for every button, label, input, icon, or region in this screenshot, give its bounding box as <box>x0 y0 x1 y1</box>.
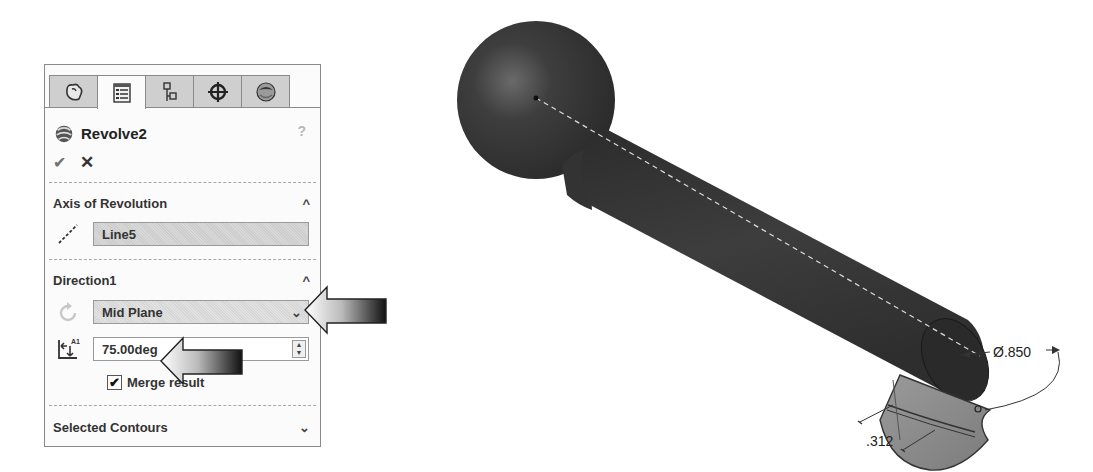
angle-icon-label: A1 <box>71 338 80 345</box>
divider <box>49 182 316 183</box>
merge-result-checkbox[interactable]: ✔ <box>107 375 122 390</box>
diameter-dimension[interactable]: Ø.850 <box>993 344 1031 360</box>
ok-button[interactable]: ✔ <box>53 153 66 172</box>
tab-displaymanager[interactable] <box>241 75 290 108</box>
angle-icon: A1 <box>55 336 81 362</box>
thickness-dimension[interactable]: .312 <box>866 433 893 449</box>
help-icon[interactable]: ? <box>297 123 306 139</box>
tab-dimxpertmanager[interactable] <box>193 75 242 108</box>
spin-down-icon[interactable]: ▼ <box>296 349 303 357</box>
graphics-viewport[interactable]: Ø.850 .312 <box>420 0 1093 472</box>
axis-value: Line5 <box>102 227 136 242</box>
end-condition-dropdown[interactable]: Mid Plane ⌄ <box>93 300 309 324</box>
tab-featuremanager[interactable] <box>49 75 98 108</box>
expand-chevron-icon[interactable]: ⌄ <box>299 420 310 435</box>
reverse-direction-icon[interactable] <box>55 300 81 326</box>
feature-title: Revolve2 <box>81 125 147 142</box>
end-condition-value: Mid Plane <box>102 305 163 320</box>
angle-spinner[interactable]: ▲ ▼ <box>292 340 306 358</box>
axis-of-revolution-header[interactable]: Axis of Revolution ^ <box>53 193 310 213</box>
ok-cancel-row: ✔ ✕ <box>53 152 94 173</box>
axis-centerline <box>536 98 980 356</box>
collapse-chevron-icon[interactable]: ^ <box>302 196 310 211</box>
tab-propertymanager[interactable] <box>97 75 146 109</box>
section-label: Selected Contours <box>53 420 168 435</box>
divider <box>49 259 316 260</box>
manager-tabs <box>45 71 320 108</box>
configuration-manager-icon <box>158 80 182 104</box>
section-label: Direction1 <box>53 273 117 288</box>
cancel-button[interactable]: ✕ <box>80 152 94 173</box>
revolve-feature-icon <box>53 122 75 144</box>
callout-arrow-angle <box>158 336 244 386</box>
axis-selection-box[interactable]: Line5 <box>93 222 309 246</box>
feature-manager-icon <box>62 80 86 104</box>
dimxpert-icon <box>206 80 230 104</box>
property-manager-panel: Revolve2 ? ✔ ✕ Axis of Revolution ^ Line… <box>44 64 321 447</box>
tab-configurationmanager[interactable] <box>145 75 194 108</box>
feature-title-row: Revolve2 <box>53 120 147 146</box>
section-label: Axis of Revolution <box>53 196 167 211</box>
property-manager-icon <box>110 81 134 105</box>
selected-contours-header[interactable]: Selected Contours ⌄ <box>53 417 310 437</box>
display-manager-icon <box>254 80 278 104</box>
callout-arrow-end-condition <box>300 285 390 335</box>
angle-value: 75.00deg <box>102 342 158 357</box>
divider <box>49 405 316 406</box>
axis-line-icon <box>55 221 81 247</box>
spin-up-icon[interactable]: ▲ <box>296 341 303 349</box>
direction1-header[interactable]: Direction1 ^ <box>53 270 310 290</box>
